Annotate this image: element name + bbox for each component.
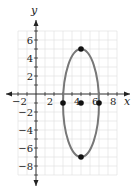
svg-text:−4: −4 [18,125,33,136]
svg-text:4: 4 [74,96,80,107]
svg-text:−2: −2 [12,96,27,107]
ellipse-graph: −22468642−2−4−6−8 x y [0,0,140,191]
svg-text:2: 2 [27,71,33,82]
svg-text:−6: −6 [18,143,33,154]
svg-text:8: 8 [110,96,116,107]
svg-text:4: 4 [27,53,33,64]
svg-text:2: 2 [47,96,53,107]
svg-text:−8: −8 [18,161,33,172]
x-axis-label: x [124,95,131,108]
svg-text:6: 6 [92,96,98,107]
svg-text:−2: −2 [18,107,33,118]
svg-text:6: 6 [27,35,33,46]
y-axis-label: y [30,4,38,17]
